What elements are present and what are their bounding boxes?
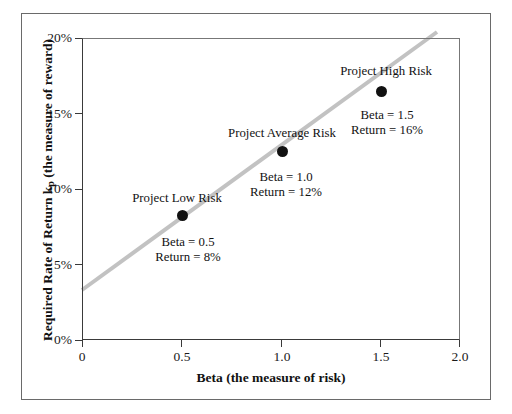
x-axis-title: Beta (the measure of risk) bbox=[82, 370, 460, 386]
annotation-high-risk-beta: Beta = 1.5 bbox=[327, 108, 447, 123]
annotation-high-risk-return: Return = 16% bbox=[327, 123, 447, 138]
annotation-average-risk-stats: Beta = 1.0 Return = 12% bbox=[226, 170, 346, 200]
annotation-average-risk-beta: Beta = 1.0 bbox=[226, 170, 346, 185]
y-axis-title-subscript: p bbox=[45, 181, 56, 187]
x-tick-label-1-5: 1.5 bbox=[356, 350, 406, 364]
x-tick-mark-2-0 bbox=[459, 340, 460, 347]
annotation-low-risk-name: Project Low Risk bbox=[122, 191, 232, 206]
y-tick-mark-0 bbox=[75, 340, 82, 341]
x-tick-mark-0 bbox=[82, 340, 83, 347]
sml-chart-figure: 20% 15% 10% 5% 0% 0 0.5 1.0 1.5 2.0 Beta… bbox=[0, 0, 512, 414]
y-axis-title: Required Rate of Return kp (the measure … bbox=[40, 25, 56, 355]
x-tick-label-2-0: 2.0 bbox=[435, 350, 485, 364]
y-tick-mark-5 bbox=[75, 264, 82, 265]
annotation-low-risk-stats: Beta = 0.5 Return = 8% bbox=[128, 235, 248, 265]
x-tick-mark-1-0 bbox=[281, 340, 282, 347]
x-tick-mark-1-5 bbox=[380, 340, 381, 347]
annotation-low-risk-beta: Beta = 0.5 bbox=[128, 235, 248, 250]
x-tick-mark-0-5 bbox=[181, 340, 182, 347]
y-axis-title-suffix: (the measure of reward) bbox=[40, 39, 55, 181]
y-axis-title-prefix: Required Rate of Return k bbox=[40, 187, 55, 341]
x-tick-label-0: 0 bbox=[57, 350, 107, 364]
y-tick-mark-10 bbox=[75, 189, 82, 190]
x-tick-label-1-0: 1.0 bbox=[257, 350, 307, 364]
annotation-high-risk-stats: Beta = 1.5 Return = 16% bbox=[327, 108, 447, 138]
annotation-high-risk-name: Project High Risk bbox=[325, 64, 447, 79]
y-tick-mark-15 bbox=[75, 113, 82, 114]
data-point-high-risk[interactable] bbox=[376, 86, 387, 97]
y-tick-mark-20 bbox=[75, 38, 82, 39]
data-point-low-risk[interactable] bbox=[177, 210, 188, 221]
data-point-average-risk[interactable] bbox=[277, 146, 288, 157]
annotation-average-risk-return: Return = 12% bbox=[226, 185, 346, 200]
annotation-low-risk-return: Return = 8% bbox=[128, 250, 248, 265]
x-tick-label-0-5: 0.5 bbox=[157, 350, 207, 364]
